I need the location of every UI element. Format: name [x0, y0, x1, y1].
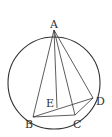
label-C: C — [73, 118, 81, 131]
segment-AD — [54, 30, 93, 98]
label-E: E — [46, 97, 54, 110]
label-D: D — [96, 95, 105, 108]
circumcircle — [8, 37, 100, 129]
label-A: A — [49, 18, 59, 31]
label-B: B — [25, 118, 33, 131]
segment-BD — [33, 98, 93, 117]
geometry-diagram: A B C D E — [0, 0, 112, 137]
diagram-canvas: A B C D E — [0, 0, 112, 137]
